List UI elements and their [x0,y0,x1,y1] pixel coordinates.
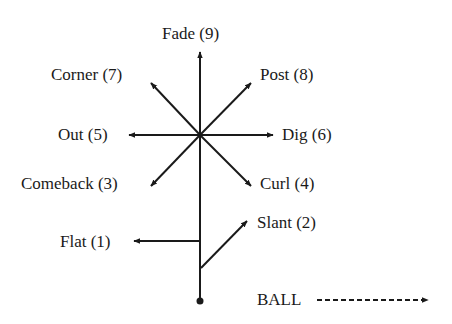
comeback-label: Comeback (3) [21,174,118,194]
curl-route-arrow [200,135,251,186]
corner-route-arrow [151,83,200,135]
post-route-arrow [200,83,251,135]
comeback-route-arrow [151,135,200,186]
curl-label: Curl (4) [260,174,314,194]
route-tree-diagram [0,0,452,324]
post-label: Post (8) [260,65,313,85]
slant-route-arrow [201,221,247,268]
fade-label: Fade (9) [162,24,219,44]
dig-label: Dig (6) [282,125,332,145]
corner-label: Corner (7) [51,65,122,85]
ball-label: BALL [257,290,301,310]
out-label: Out (5) [58,125,108,145]
ball-origin-dot [197,298,204,305]
slant-label: Slant (2) [257,213,316,233]
flat-label: Flat (1) [60,232,111,252]
